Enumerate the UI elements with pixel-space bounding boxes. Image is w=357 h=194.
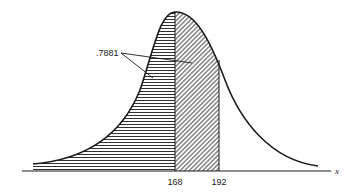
- area-annotation-label: .7881: [96, 48, 119, 58]
- x-tick-label-168: 168: [167, 177, 182, 187]
- shaded-region-168-to-192: [175, 0, 219, 171]
- normal-curve-chart: .7881 168 192 x: [0, 0, 357, 194]
- x-axis-variable-label: x: [334, 166, 339, 176]
- shaded-region-left-of-168: [22, 0, 175, 171]
- x-tick-label-192: 192: [211, 177, 226, 187]
